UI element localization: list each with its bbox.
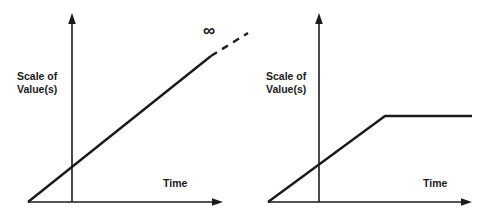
left-y-axis-arrowhead bbox=[68, 13, 76, 24]
right-y-axis-arrowhead bbox=[315, 13, 323, 24]
left-growth-line-extension bbox=[211, 33, 248, 56]
left-y-axis-label: Scale of Value(s) bbox=[17, 70, 57, 95]
right-x-axis-arrowhead bbox=[461, 198, 472, 206]
right-y-axis-label: Scale of Value(s) bbox=[266, 70, 306, 95]
panel-plateau-growth: Scale of Value(s) Time bbox=[249, 0, 498, 222]
two-panel-figure: Scale of Value(s) Time ∞ Scale of Value(… bbox=[0, 0, 498, 222]
left-x-axis-label: Time bbox=[163, 177, 187, 190]
right-x-axis-label: Time bbox=[423, 177, 447, 190]
panel-unbounded-growth: Scale of Value(s) Time ∞ bbox=[0, 0, 249, 222]
infinity-symbol: ∞ bbox=[203, 22, 215, 39]
right-chart-svg bbox=[249, 0, 498, 222]
left-x-axis-arrowhead bbox=[212, 198, 223, 206]
